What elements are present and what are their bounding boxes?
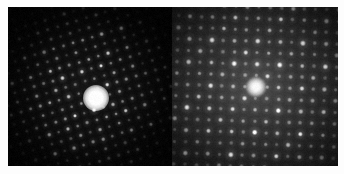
right-pattern-canvas: [172, 7, 338, 166]
right-diffraction-pattern: [172, 7, 338, 166]
left-diffraction-pattern: [8, 7, 172, 166]
left-pattern-canvas: [8, 7, 172, 166]
diffraction-figure: [0, 0, 344, 174]
